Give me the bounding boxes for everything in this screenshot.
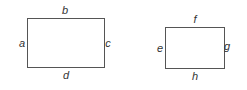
rectangle-1 — [27, 18, 105, 68]
rect-1-label-top: b — [60, 5, 70, 16]
rect-2-label-bottom: h — [190, 71, 200, 82]
rect-1-label-right: c — [103, 38, 113, 49]
rect-2-label-top: f — [190, 14, 200, 25]
rect-1-label-bottom: d — [61, 70, 71, 81]
rect-2-label-left: e — [155, 43, 165, 54]
rect-2-label-right: g — [222, 41, 232, 52]
rect-1-label-left: a — [17, 38, 27, 49]
rectangle-2 — [165, 27, 225, 69]
